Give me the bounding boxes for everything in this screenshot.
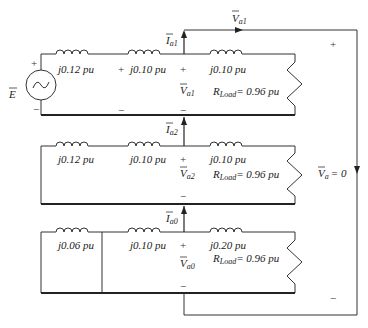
inductor-label: j0.10 pu: [128, 153, 167, 165]
voltage-label: Va0: [180, 257, 195, 271]
load-label: RLoad= 0.96 pu: [212, 168, 280, 182]
voltage-label: Va2: [180, 167, 195, 181]
inductor-label: j0.10 pu: [128, 239, 167, 251]
sine-wave-icon: [33, 82, 49, 88]
inductor-icon: [56, 50, 88, 54]
inductor-icon: [128, 228, 160, 232]
mid-minus: −: [118, 104, 124, 116]
node-plus: +: [180, 239, 186, 251]
zero-sequence-network: j0.06 pu j0.10 pu + j0.20 pu − Va0 RLoad…: [41, 228, 302, 293]
inductor-icon: [210, 50, 242, 54]
resistor-icon: [287, 232, 302, 293]
svg-text:RLoad= 0.96 pu: RLoad= 0.96 pu: [212, 252, 280, 266]
arrow-up-icon: [181, 117, 187, 125]
current-arrow-a0: Ia0: [165, 206, 187, 232]
current-arrow-a1: Ia1: [165, 30, 187, 54]
inductor-label: j0.10 pu: [128, 63, 167, 75]
resistor-icon: [287, 146, 302, 204]
inductor-icon: [210, 142, 242, 146]
svg-text:Va2: Va2: [180, 167, 195, 181]
arrow-up-icon: [181, 30, 187, 38]
source-plus: +: [31, 57, 37, 69]
node-minus: −: [180, 280, 186, 292]
svg-text:RLoad= 0.96 pu: RLoad= 0.96 pu: [212, 168, 280, 182]
inductor-label: j0.06 pu: [56, 239, 95, 251]
mid-plus: +: [118, 63, 124, 75]
svg-text:RLoad= 0.96 pu: RLoad= 0.96 pu: [212, 85, 280, 99]
sequence-network-diagram: + − E j0.12 pu + j0.10 pu − + j0.10 pu −…: [0, 0, 368, 328]
loop-top-label: Va1: [232, 11, 247, 26]
loop-plus: +: [330, 38, 336, 50]
arrow-up-icon: [181, 206, 187, 214]
ac-source: + − E: [8, 54, 56, 115]
svg-text:Va1: Va1: [180, 84, 195, 98]
load-label: RLoad= 0.96 pu: [212, 252, 280, 266]
inductor-icon: [56, 142, 88, 146]
source-minus: −: [33, 103, 39, 115]
current-arrow-a2: Ia2: [165, 117, 187, 146]
svg-text:Va1: Va1: [232, 12, 247, 26]
svg-text:Va0: Va0: [180, 257, 195, 271]
load-label: RLoad= 0.96 pu: [212, 85, 280, 99]
node-minus: −: [180, 190, 186, 202]
svg-text:Va= 0: Va= 0: [318, 167, 347, 181]
node-plus: +: [180, 153, 186, 165]
svg-text:Ia2: Ia2: [165, 123, 178, 137]
inductor-label: j0.20 pu: [208, 239, 247, 251]
resistor-icon: [287, 54, 302, 115]
inductor-icon: [56, 228, 88, 232]
inductor-icon: [210, 228, 242, 232]
arrow-down-icon: [354, 166, 360, 174]
negative-sequence-network: j0.12 pu j0.10 pu + j0.10 pu − Va2 RLoad…: [41, 142, 302, 204]
loop-minus: −: [330, 292, 336, 304]
node-plus: +: [180, 63, 186, 75]
voltage-label: Va1: [180, 84, 195, 98]
positive-sequence-network: + − E j0.12 pu + j0.10 pu − + j0.10 pu −…: [8, 50, 302, 116]
source-label: E: [8, 88, 16, 100]
phase-voltage-label: Va= 0: [318, 167, 347, 181]
svg-text:Ia0: Ia0: [165, 212, 178, 226]
inductor-label: j0.12 pu: [56, 63, 95, 75]
inductor-icon: [128, 142, 160, 146]
inductor-label: j0.10 pu: [208, 153, 247, 165]
node-minus: −: [180, 104, 186, 116]
arrow-right-icon: [235, 27, 243, 33]
inductor-icon: [128, 50, 160, 54]
inductor-label: j0.12 pu: [56, 153, 95, 165]
svg-text:Ia1: Ia1: [165, 34, 178, 48]
inductor-label: j0.10 pu: [208, 63, 247, 75]
